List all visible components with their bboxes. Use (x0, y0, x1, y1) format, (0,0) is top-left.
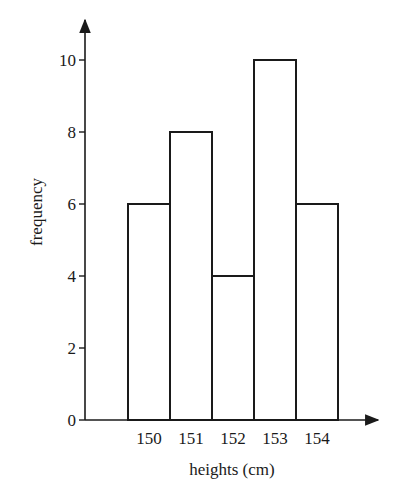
bar-154 (296, 204, 338, 420)
x-tick-label: 151 (178, 429, 204, 448)
x-axis-ticks: 150151152153154 (136, 429, 330, 448)
y-tick-label: 6 (68, 195, 77, 214)
bar-153 (254, 60, 296, 420)
x-tick-label: 154 (304, 429, 330, 448)
bar-150 (128, 204, 170, 420)
bars-group (128, 60, 338, 420)
y-tick-label: 8 (68, 123, 77, 142)
bar-152 (212, 276, 254, 420)
y-tick-label: 2 (68, 339, 77, 358)
x-axis-title: heights (cm) (189, 460, 274, 479)
x-tick-label: 153 (262, 429, 288, 448)
y-tick-label: 0 (68, 411, 77, 430)
y-axis-ticks: 0246810 (59, 51, 85, 430)
y-tick-label: 10 (59, 51, 76, 70)
histogram-chart: 0246810 150151152153154 heights (cm) fre… (0, 0, 406, 488)
y-tick-label: 4 (68, 267, 77, 286)
x-tick-label: 152 (220, 429, 246, 448)
x-tick-label: 150 (136, 429, 162, 448)
y-axis-title: frequency (27, 178, 46, 246)
bar-151 (170, 132, 212, 420)
